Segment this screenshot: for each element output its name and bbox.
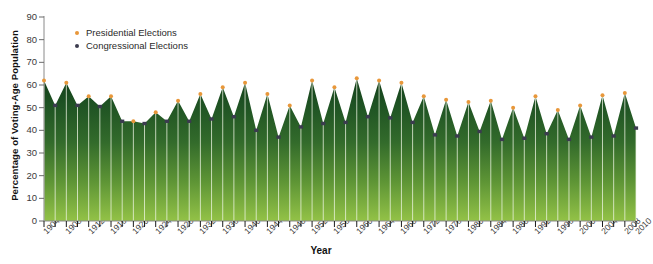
area-fill xyxy=(44,78,636,221)
data-point-congressional xyxy=(567,138,571,141)
data-point-congressional xyxy=(411,121,415,124)
data-point-congressional xyxy=(634,126,638,129)
data-point-congressional xyxy=(254,129,258,132)
data-point-presidential xyxy=(87,94,91,98)
data-point-congressional xyxy=(433,133,437,136)
data-point-presidential xyxy=(288,103,292,107)
data-point-congressional xyxy=(75,104,79,107)
data-point-presidential xyxy=(310,78,314,82)
data-point-congressional xyxy=(120,120,124,123)
data-point-presidential xyxy=(198,92,202,96)
data-point-presidential xyxy=(489,99,493,103)
legend-item-presidential: Presidential Elections xyxy=(75,26,188,39)
data-point-presidential xyxy=(131,119,135,123)
data-point-presidential xyxy=(243,81,247,85)
data-point-congressional xyxy=(299,125,303,128)
data-point-congressional xyxy=(165,120,169,123)
data-point-congressional xyxy=(388,116,392,119)
data-point-presidential xyxy=(600,93,604,97)
data-point-presidential xyxy=(64,81,68,85)
data-point-congressional xyxy=(232,115,236,118)
legend-item-congressional: Congressional Elections xyxy=(75,39,188,52)
data-point-congressional xyxy=(589,135,593,138)
data-point-presidential xyxy=(265,92,269,96)
data-point-congressional xyxy=(142,122,146,125)
data-point-presidential xyxy=(422,94,426,98)
data-point-presidential xyxy=(578,103,582,107)
data-point-congressional xyxy=(366,115,370,118)
data-point-congressional xyxy=(276,135,280,138)
data-point-presidential xyxy=(332,85,336,89)
legend-label: Presidential Elections xyxy=(86,27,177,38)
data-point-congressional xyxy=(321,122,325,125)
legend-swatch-presidential-icon xyxy=(75,31,79,35)
data-point-presidential xyxy=(444,98,448,102)
legend: Presidential ElectionsCongressional Elec… xyxy=(75,26,188,52)
data-point-presidential xyxy=(109,94,113,98)
data-point-presidential xyxy=(42,78,46,82)
data-point-congressional xyxy=(500,138,504,141)
data-point-presidential xyxy=(154,110,158,114)
legend-label: Congressional Elections xyxy=(86,40,188,51)
data-point-congressional xyxy=(209,117,213,120)
data-point-presidential xyxy=(355,76,359,80)
data-point-presidential xyxy=(221,85,225,89)
data-point-presidential xyxy=(399,81,403,85)
data-point-presidential xyxy=(556,108,560,112)
data-point-congressional xyxy=(343,121,347,124)
data-point-presidential xyxy=(176,99,180,103)
data-point-presidential xyxy=(377,78,381,82)
data-point-congressional xyxy=(98,105,102,108)
data-point-congressional xyxy=(187,120,191,123)
data-point-presidential xyxy=(533,94,537,98)
data-point-congressional xyxy=(455,134,459,137)
data-point-presidential xyxy=(511,106,515,110)
legend-swatch-congressional-icon xyxy=(75,44,79,48)
data-point-congressional xyxy=(522,137,526,140)
data-point-congressional xyxy=(478,130,482,133)
data-point-congressional xyxy=(545,132,549,135)
data-point-congressional xyxy=(53,104,57,107)
data-point-presidential xyxy=(623,91,627,95)
data-point-congressional xyxy=(612,134,616,137)
data-point-presidential xyxy=(466,100,470,104)
